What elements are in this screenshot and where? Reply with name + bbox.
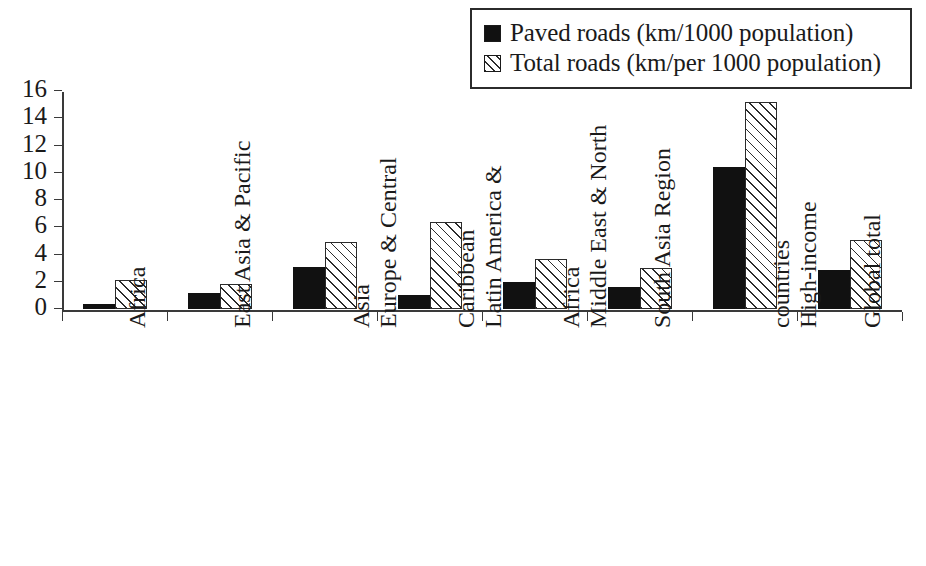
x-axis-tick (167, 312, 168, 321)
x-axis-category-label: South Asia Region (649, 148, 676, 328)
bar-paved-roads (818, 270, 850, 310)
legend-item-paved-roads: Paved roads (km/1000 population) (484, 18, 900, 48)
x-axis-category-label: High-incomecountries (768, 201, 822, 328)
bar-paved-roads (398, 295, 430, 309)
category-label-line: Latin America & (480, 165, 507, 328)
y-axis-tick-label: 4 (35, 239, 48, 267)
legend-label-paved-roads: Paved roads (km/1000 population) (510, 19, 853, 47)
bar-paved-roads (83, 304, 115, 309)
category-label-line: countries (768, 201, 795, 328)
y-axis-tick-label: 2 (35, 266, 48, 294)
x-axis-category-label: Global total (859, 214, 886, 328)
bar-paved-roads (503, 282, 535, 309)
bar-paved-roads (713, 167, 745, 309)
category-label-line: Global total (859, 214, 886, 328)
bar-paved-roads (188, 293, 220, 309)
y-axis-tick-label: 6 (35, 211, 48, 239)
plot-area: 0246810121416 AfricaEast Asia & PacificE… (62, 92, 902, 311)
x-axis-tick (692, 312, 693, 321)
y-axis-tick: 10 (54, 172, 62, 173)
y-axis-line (62, 92, 64, 312)
category-label-line: Africa (124, 267, 151, 328)
y-axis-tick: 6 (54, 226, 62, 227)
x-axis-category-label: Africa (124, 267, 151, 328)
category-label-line: Caribbean (453, 165, 480, 328)
x-axis-category-label: East Asia & Pacific (229, 141, 256, 328)
y-axis-tick-label: 0 (35, 293, 48, 321)
x-axis-category-label: Middle East & NorthAfrica (558, 125, 612, 328)
x-axis-tick (902, 312, 903, 321)
category-label-line: East Asia & Pacific (229, 141, 256, 328)
y-axis-tick: 4 (54, 254, 62, 255)
y-axis-tick-label: 12 (22, 130, 47, 158)
y-axis-tick: 0 (54, 308, 62, 309)
category-label-line: Asia (348, 157, 375, 328)
bar-paved-roads (608, 287, 640, 309)
x-axis-category-label: Europe & CentralAsia (348, 157, 402, 328)
x-axis-category-label: Latin America &Caribbean (453, 165, 507, 328)
y-axis-tick: 16 (54, 90, 62, 91)
category-label-line: Africa (558, 125, 585, 328)
solid-black-swatch-icon (484, 25, 501, 42)
y-axis-tick: 14 (54, 117, 62, 118)
legend-label-total-roads: Total roads (km/per 1000 population) (510, 49, 881, 77)
x-axis-tick (62, 312, 63, 321)
category-label-line: Europe & Central (375, 157, 402, 328)
y-axis-tick-label: 14 (22, 102, 47, 130)
bar-chart: Paved roads (km/1000 population) Total r… (0, 0, 926, 566)
category-label-line: Middle East & North (585, 125, 612, 328)
y-axis-tick-label: 10 (22, 157, 47, 185)
category-label-line: High-income (795, 201, 822, 328)
y-axis-tick: 2 (54, 281, 62, 282)
y-axis-tick-label: 8 (35, 184, 48, 212)
y-axis-tick: 8 (54, 199, 62, 200)
y-axis-tick-label: 16 (22, 75, 47, 103)
chart-legend: Paved roads (km/1000 population) Total r… (470, 8, 912, 89)
legend-item-total-roads: Total roads (km/per 1000 population) (484, 48, 900, 78)
y-axis-tick: 12 (54, 145, 62, 146)
x-axis-tick (272, 312, 273, 321)
category-label-line: South Asia Region (649, 148, 676, 328)
bar-paved-roads (293, 267, 325, 309)
hatched-swatch-icon (484, 55, 501, 72)
